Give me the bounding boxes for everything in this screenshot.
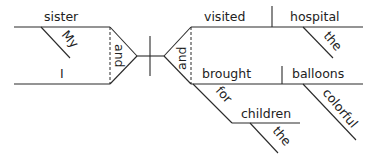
predicate-conjunction: and [164, 27, 191, 84]
word-my: My [59, 27, 83, 51]
sentence-diagram: sister My I and and visited hospital the [0, 0, 376, 168]
subject-i: I [14, 66, 110, 84]
prepositional-phrase: for children [193, 83, 300, 123]
word-visited: visited [204, 9, 245, 24]
modifier-the-children: the [250, 123, 295, 153]
word-i: I [60, 66, 64, 81]
word-the-children: the [270, 123, 295, 149]
predicate-brought: brought balloons [191, 66, 363, 84]
word-brought: brought [202, 66, 251, 81]
word-for: for [213, 83, 236, 106]
predicate-visited: visited hospital [191, 6, 363, 27]
word-and-left: and [112, 44, 127, 68]
word-balloons: balloons [292, 66, 344, 81]
modifier-my: My [41, 27, 82, 58]
modifier-the-hospital: the [303, 27, 346, 58]
word-the-hospital: the [321, 28, 346, 54]
subject-sister: sister [14, 9, 110, 27]
word-sister: sister [44, 9, 79, 24]
word-and-right: and [174, 46, 189, 70]
word-children: children [241, 106, 291, 121]
word-hospital: hospital [290, 9, 340, 24]
modifier-colorful: colorful [303, 84, 361, 140]
subject-conjunction: and [110, 27, 137, 84]
